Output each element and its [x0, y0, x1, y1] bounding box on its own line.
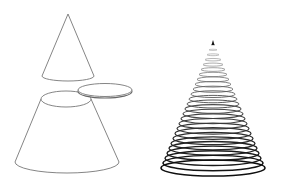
cone-ring	[187, 100, 239, 108]
top-cone-outline	[42, 14, 94, 81]
cone-ring	[205, 58, 221, 60]
cone-ring	[189, 95, 237, 102]
frustum-outline	[15, 99, 119, 173]
cone-decomposition-diagram	[0, 0, 284, 186]
disk-top-face	[78, 84, 132, 97]
diagram-svg	[0, 0, 284, 186]
cone-ring	[197, 77, 229, 82]
cone-ring	[199, 72, 227, 76]
cone-ring	[203, 63, 223, 66]
cone-ring	[201, 68, 225, 72]
stacked-rings-cone-group	[161, 40, 265, 176]
cone-ring	[209, 49, 217, 50]
cone-apex-tip	[212, 40, 215, 45]
sliced-cone-group	[15, 14, 132, 173]
cone-ring	[207, 54, 219, 56]
